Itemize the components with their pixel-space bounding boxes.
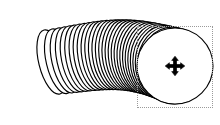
move-cursor-icon[interactable]: [164, 55, 186, 77]
artwork-svg: [0, 0, 220, 125]
drawing-canvas[interactable]: [0, 0, 220, 125]
